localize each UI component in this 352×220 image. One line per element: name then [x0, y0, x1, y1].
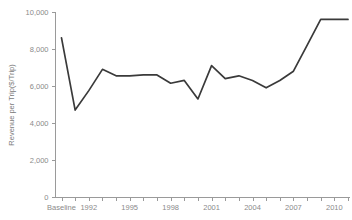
y-tick-marks — [52, 13, 56, 198]
y-tick-label: 0 — [44, 193, 48, 202]
y-tick-labels: 02,0004,0006,0008,00010,000 — [26, 8, 49, 202]
x-tick-label: Baseline — [47, 203, 76, 212]
x-tick-label: 2001 — [203, 203, 220, 212]
y-axis-group: 02,0004,0006,0008,00010,000 — [26, 8, 56, 202]
x-tick-labels: Baseline1992199519982001200420072010 — [47, 203, 343, 212]
chart-container: Revenue per Trip($/Trip) 02,0004,0006,00… — [0, 0, 352, 220]
x-tick-label: 2007 — [285, 203, 302, 212]
y-tick-label: 8,000 — [30, 45, 49, 54]
y-axis-title-group: Revenue per Trip($/Trip) — [7, 64, 16, 146]
y-tick-label: 10,000 — [26, 8, 49, 17]
y-tick-label: 2,000 — [30, 156, 49, 165]
x-tick-label: 1998 — [162, 203, 179, 212]
y-tick-label: 6,000 — [30, 82, 49, 91]
y-tick-label: 4,000 — [30, 119, 49, 128]
revenue-per-trip-line — [62, 19, 349, 110]
line-chart: Revenue per Trip($/Trip) 02,0004,0006,00… — [0, 0, 352, 220]
x-tick-label: 1995 — [121, 203, 138, 212]
y-axis-title: Revenue per Trip($/Trip) — [7, 64, 16, 146]
data-series-group — [62, 19, 349, 110]
x-tick-label: 2004 — [244, 203, 261, 212]
x-tick-label: 1992 — [80, 203, 97, 212]
x-axis-group: Baseline1992199519982001200420072010 — [47, 197, 350, 212]
x-tick-label: 2010 — [326, 203, 343, 212]
